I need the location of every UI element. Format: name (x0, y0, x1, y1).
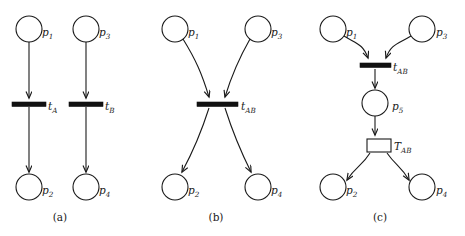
place-label-p4: p4 (271, 184, 283, 199)
transition-label-tA-subscript: A (51, 106, 57, 115)
place-circle-p4 (245, 174, 271, 200)
place-p4-panel-a: p4 (73, 174, 111, 200)
transition-box-TAB (367, 139, 391, 152)
place-label-p1-subscript: 1 (195, 32, 200, 41)
place-circle-p3 (73, 16, 99, 42)
place-p4-panel-c: p4 (409, 174, 448, 200)
arc-p1-to-tAB (183, 39, 209, 97)
place-label-p2: p2 (188, 184, 200, 199)
place-p3-panel-a: p3 (73, 16, 111, 42)
place-label-p2: p2 (42, 184, 54, 199)
place-label-p1: p1 (42, 26, 53, 41)
panel-caption-c: (c) (373, 211, 387, 223)
transition-bar-tAB (360, 63, 391, 68)
transition-label-tAB-subscript: AB (244, 106, 255, 115)
transition-label-tA: tA (48, 100, 57, 115)
panel-a: p1p3p2p4tAtB(a) (12, 16, 115, 223)
transition-tB-panel-a: tB (69, 100, 115, 115)
place-circle-p2 (162, 174, 188, 200)
place-p2-panel-b: p2 (162, 174, 200, 200)
place-p1-panel-a: p1 (16, 16, 53, 42)
place-label-p3: p3 (436, 26, 448, 41)
place-p5-panel-c: p5 (362, 90, 404, 116)
place-label-p3: p3 (271, 26, 283, 41)
panel-caption-b: (b) (209, 211, 224, 223)
place-circle-p1 (320, 16, 346, 42)
place-circle-p3 (245, 16, 271, 42)
arc-p3-to-tAB (386, 36, 411, 58)
transition-label-TAB-subscript: AB (400, 146, 411, 155)
panel-c: p1p3p5p2p4tABTAB(c) (320, 16, 448, 223)
transition-tAB-panel-c: tAB (360, 61, 408, 76)
transition-label-tAB: tAB (393, 61, 408, 76)
figure-canvas: p1p3p2p4tAtB(a)p1p3p2p4tAB(b)p1p3p5p2p4t… (0, 0, 465, 236)
place-label-p3-subscript: 3 (106, 32, 111, 41)
place-circle-p4 (73, 174, 99, 200)
arc-TAB-to-p2 (347, 153, 370, 180)
place-label-p4-subscript: 4 (277, 190, 283, 199)
place-label-p3-subscript: 3 (443, 32, 448, 41)
transition-bar-tB (69, 102, 103, 107)
place-label-p5: p5 (392, 100, 404, 115)
place-label-p2-subscript: 2 (194, 190, 200, 199)
place-label-p2-subscript: 2 (48, 190, 54, 199)
transition-label-tB: tB (105, 100, 115, 115)
place-circle-p3 (409, 16, 435, 42)
place-circle-p5 (362, 90, 388, 116)
place-label-p5-subscript: 5 (399, 106, 404, 115)
transition-label-TAB: TAB (394, 140, 412, 155)
place-p2-panel-a: p2 (16, 174, 54, 200)
transition-TAB-panel-c: TAB (367, 139, 412, 155)
place-label-p4-subscript: 4 (442, 190, 448, 199)
place-circle-p1 (16, 16, 42, 42)
transition-bar-tAB (197, 102, 238, 107)
place-p4-panel-b: p4 (245, 174, 283, 200)
diagram-scene: p1p3p2p4tAtB(a)p1p3p2p4tAB(b)p1p3p5p2p4t… (12, 16, 448, 223)
place-label-p1-subscript: 1 (49, 32, 54, 41)
petri-net-figure: p1p3p2p4tAtB(a)p1p3p2p4tAB(b)p1p3p5p2p4t… (0, 0, 465, 236)
place-label-p3-subscript: 3 (278, 32, 283, 41)
transition-tA-panel-a: tA (12, 100, 57, 115)
place-label-p1-subscript: 1 (353, 32, 358, 41)
place-p3-panel-c: p3 (409, 16, 448, 42)
place-p2-panel-c: p2 (320, 174, 358, 200)
transition-bar-tA (12, 102, 46, 107)
arc-p3-to-tAB (225, 39, 250, 97)
place-label-p1: p1 (188, 26, 199, 41)
transition-label-tB-subscript: B (108, 106, 114, 115)
arc-tAB-to-p4 (225, 108, 251, 172)
transition-label-tAB-subscript: AB (396, 67, 407, 76)
place-label-p2-subscript: 2 (352, 190, 358, 199)
panel-b: p1p3p2p4tAB(b) (162, 16, 283, 223)
place-circle-p2 (16, 174, 42, 200)
panel-caption-a: (a) (53, 211, 67, 223)
place-circle-p1 (162, 16, 188, 42)
place-label-p4: p4 (99, 184, 111, 199)
arc-TAB-to-p4 (387, 153, 409, 180)
place-p1-panel-c: p1 (320, 16, 357, 42)
place-p3-panel-b: p3 (245, 16, 283, 42)
place-label-p2: p2 (346, 184, 358, 199)
place-p1-panel-b: p1 (162, 16, 199, 42)
arc-tAB-to-p2 (182, 108, 209, 172)
place-circle-p4 (409, 174, 435, 200)
place-label-p4-subscript: 4 (105, 190, 111, 199)
place-circle-p2 (320, 174, 346, 200)
place-label-p4: p4 (436, 184, 448, 199)
transition-label-tAB: tAB (241, 100, 256, 115)
place-label-p3: p3 (99, 26, 111, 41)
